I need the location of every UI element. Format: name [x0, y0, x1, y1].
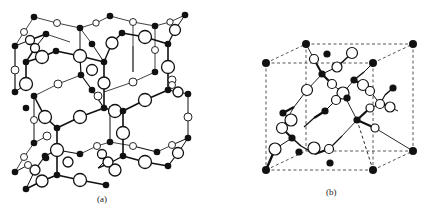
lattice-a-drawing — [0, 0, 215, 214]
figure-b-caption: (b) — [326, 187, 337, 197]
lattice-b-drawing — [215, 0, 429, 214]
figure-a-hexagonal-lattice: (a) — [0, 0, 215, 214]
figure-b-cubic-cell: (b) — [215, 0, 429, 214]
figure-a-caption: (a) — [97, 194, 107, 204]
